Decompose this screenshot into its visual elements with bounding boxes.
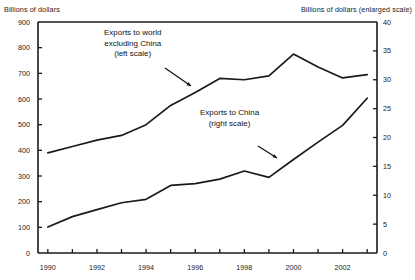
plot-area	[0, 0, 415, 280]
y-tick-label-right: 5	[383, 220, 407, 229]
y-tick-label-left: 700	[6, 69, 30, 78]
y-tick-label-right: 10	[383, 191, 407, 200]
y-tick-label-left: 900	[6, 18, 30, 27]
y-tick-label-left: 400	[6, 146, 30, 155]
x-tick-label: 1996	[178, 263, 212, 272]
annotation-arrow-world	[165, 68, 191, 86]
y-tick-label-right: 40	[383, 18, 407, 27]
x-tick-label: 2002	[326, 263, 360, 272]
y-tick-label-left: 300	[6, 172, 30, 181]
y-tick-label-right: 25	[383, 104, 407, 113]
series-line-world	[48, 54, 367, 153]
y-tick-label-right: 20	[383, 133, 407, 142]
series-line-china	[48, 98, 367, 227]
y-tick-label-left: 200	[6, 197, 30, 206]
x-tick-label: 1990	[31, 263, 65, 272]
y-tick-label-left: 500	[6, 120, 30, 129]
y-tick-label-right: 15	[383, 162, 407, 171]
y-tick-label-left: 0	[6, 249, 30, 258]
x-tick-label: 2000	[276, 263, 310, 272]
y-tick-label-left: 800	[6, 43, 30, 52]
y-tick-label-right: 0	[383, 249, 407, 258]
y-tick-label-right: 30	[383, 75, 407, 84]
x-tick-label: 1998	[227, 263, 261, 272]
y-tick-label-left: 100	[6, 223, 30, 232]
y-tick-label-left: 600	[6, 95, 30, 104]
x-tick-label: 1992	[80, 263, 114, 272]
y-tick-label-right: 35	[383, 46, 407, 55]
export-line-chart: Billions of dollars Billions of dollars …	[0, 0, 415, 280]
x-tick-label: 1994	[129, 263, 163, 272]
